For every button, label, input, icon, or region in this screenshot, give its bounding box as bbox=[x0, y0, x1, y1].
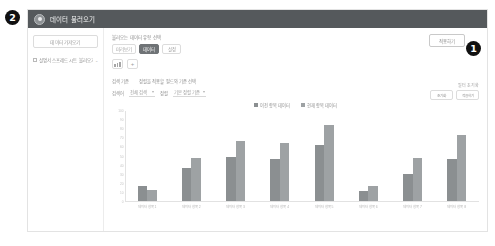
bar-series-1[interactable] bbox=[138, 186, 148, 201]
bar-series-2[interactable] bbox=[191, 158, 201, 201]
search-select[interactable]: 전체 검색 ▾ bbox=[129, 88, 155, 97]
bar-group bbox=[226, 111, 245, 201]
segment-preview[interactable]: 미리보기 bbox=[112, 44, 136, 54]
segment-settings[interactable]: 설정 bbox=[162, 44, 181, 54]
y-axis: 0102030405060708090100 bbox=[112, 111, 126, 202]
y-axis-tick: 60 bbox=[120, 145, 124, 149]
chart-section: 이전 항목 데이터 현재 항목 데이터 01020304050607080901… bbox=[104, 100, 487, 231]
sidebar: 데이터 가져오기 설명서 스프레드 시트 불러오기 ⌄ bbox=[28, 28, 104, 231]
annotation-badge-2: 2 bbox=[5, 10, 20, 25]
sort-select-value: 기본 정렬 기준 bbox=[174, 89, 200, 95]
filter-apply-button[interactable]: 적용하기 bbox=[456, 90, 479, 100]
sidebar-item-label: 설명서 스프레드 시트 불러오기 bbox=[39, 57, 93, 63]
bar-series-2[interactable] bbox=[236, 141, 246, 201]
filter-heading-search: 검색 기준 bbox=[112, 78, 129, 84]
bar-series-1[interactable] bbox=[270, 159, 280, 201]
y-axis-tick: 10 bbox=[120, 191, 124, 195]
apply-button-label: 적용하기 bbox=[439, 38, 455, 44]
bar-group bbox=[359, 111, 378, 201]
screenshot-root: 2 1 데이터 불러오기 데이터 가져오기 설명서 스프레드 시트 불러오기 ⌄… bbox=[0, 0, 495, 246]
bar-series-2[interactable] bbox=[280, 143, 290, 202]
filter-apply-button-label: 적용하기 bbox=[462, 93, 474, 98]
controls-section: 불러오는 데이터 유형 선택 미리보기 데이터 설정 bbox=[104, 28, 487, 69]
y-axis-tick: 0 bbox=[122, 200, 124, 204]
y-axis-tick: 70 bbox=[120, 136, 124, 140]
data-type-segmented-control: 미리보기 데이터 설정 bbox=[112, 44, 479, 54]
x-axis-label: 데이터 항목 4 bbox=[270, 204, 289, 209]
filter-action-buttons: 초기화 적용하기 bbox=[430, 90, 479, 100]
x-axis-label: 데이터 항목 6 bbox=[359, 204, 378, 209]
bar-group bbox=[403, 111, 422, 201]
bar-series-1[interactable] bbox=[447, 159, 457, 201]
bar-series-1[interactable] bbox=[359, 191, 369, 201]
window-body: 데이터 가져오기 설명서 스프레드 시트 불러오기 ⌄ 불러오는 데이터 유형 … bbox=[28, 28, 487, 231]
bar-series-1[interactable] bbox=[315, 145, 325, 201]
window-title: 데이터 불러오기 bbox=[50, 14, 95, 24]
y-axis-tick: 20 bbox=[120, 182, 124, 186]
bar-series-2[interactable] bbox=[368, 186, 378, 201]
legend-item-series-1: 이전 항목 데이터 bbox=[254, 102, 290, 108]
filter-section: 검색 기준 정렬을 적용할 필드와 기준 선택 검색어 전체 검색 ▾ 정렬 기… bbox=[104, 78, 487, 97]
bar-series-1[interactable] bbox=[226, 157, 236, 201]
sort-field-label: 정렬 bbox=[160, 90, 168, 96]
reset-button[interactable]: 초기화 bbox=[430, 90, 453, 100]
segment-data-label: 데이터 bbox=[143, 46, 155, 52]
x-axis-label: 데이터 항목 7 bbox=[403, 204, 422, 209]
bar-group bbox=[270, 111, 289, 201]
bar-group bbox=[182, 111, 201, 201]
y-axis-tick: 40 bbox=[120, 164, 124, 168]
icon-button-row: + bbox=[112, 59, 479, 69]
bar-series-2[interactable] bbox=[147, 190, 157, 201]
bar-group bbox=[447, 111, 466, 201]
y-axis-tick: 30 bbox=[120, 173, 124, 177]
bar-series-1[interactable] bbox=[403, 174, 413, 201]
y-axis-tick: 90 bbox=[120, 118, 124, 122]
import-data-label: 데이터 가져오기 bbox=[50, 39, 80, 45]
chevron-down-icon[interactable]: ⌄ bbox=[95, 58, 98, 63]
filter-headings: 검색 기준 정렬을 적용할 필드와 기준 선택 bbox=[112, 78, 479, 84]
bar-series-2[interactable] bbox=[457, 135, 467, 201]
bar-chart: 0102030405060708090100 데이터 항목 1데이터 항목 2데… bbox=[112, 111, 479, 214]
filter-actions: 필터 초기화 초기화 적용하기 bbox=[430, 82, 479, 100]
bar-series-1[interactable] bbox=[182, 168, 192, 201]
search-select-value: 전체 검색 bbox=[130, 89, 147, 95]
x-axis-label: 데이터 항목 3 bbox=[226, 204, 245, 209]
y-axis-tick: 50 bbox=[120, 155, 124, 159]
bar-group bbox=[315, 111, 334, 201]
add-icon-button[interactable]: + bbox=[127, 59, 138, 69]
bar-chart-icon-button[interactable] bbox=[112, 59, 123, 69]
chevron-down-icon: ▾ bbox=[152, 90, 154, 94]
controls-caption: 불러오는 데이터 유형 선택 bbox=[112, 34, 479, 40]
legend-swatch-icon bbox=[301, 103, 305, 107]
reset-button-label: 초기화 bbox=[437, 93, 446, 98]
chart-legend: 이전 항목 데이터 현재 항목 데이터 bbox=[112, 100, 479, 109]
bar-series-2[interactable] bbox=[413, 158, 423, 201]
legend-label-series-1: 이전 항목 데이터 bbox=[260, 102, 290, 108]
plot-area bbox=[125, 111, 479, 202]
apply-button[interactable]: 적용하기 bbox=[429, 34, 465, 47]
y-axis-tick: 80 bbox=[120, 127, 124, 131]
import-data-button[interactable]: 데이터 가져오기 bbox=[33, 35, 98, 48]
segment-data[interactable]: 데이터 bbox=[139, 44, 159, 54]
legend-label-series-2: 현재 항목 데이터 bbox=[307, 102, 337, 108]
filter-controls: 검색어 전체 검색 ▾ 정렬 기본 정렬 기준 ▾ bbox=[112, 88, 479, 97]
main-content: 불러오는 데이터 유형 선택 미리보기 데이터 설정 bbox=[104, 28, 487, 231]
plus-icon: + bbox=[131, 61, 135, 67]
annotation-badge-1: 1 bbox=[466, 41, 481, 56]
filter-actions-caption: 필터 초기화 bbox=[458, 82, 479, 88]
segment-settings-label: 설정 bbox=[168, 46, 176, 52]
x-axis-label: 데이터 항목 1 bbox=[138, 204, 157, 209]
sheet-icon bbox=[33, 58, 37, 62]
x-axis-label: 데이터 항목 8 bbox=[447, 204, 466, 209]
segment-preview-label: 미리보기 bbox=[116, 46, 132, 52]
bar-series-2[interactable] bbox=[324, 125, 334, 201]
chevron-down-icon: ▾ bbox=[203, 90, 205, 94]
filter-heading-sort: 정렬을 적용할 필드와 기준 선택 bbox=[139, 78, 196, 84]
camera-icon bbox=[34, 14, 45, 25]
search-field-label: 검색어 bbox=[112, 90, 124, 96]
bar-chart-icon bbox=[114, 62, 121, 67]
x-axis-labels: 데이터 항목 1데이터 항목 2데이터 항목 3데이터 항목 4데이터 항목 5… bbox=[125, 202, 479, 214]
sidebar-item-spreadsheet[interactable]: 설명서 스프레드 시트 불러오기 ⌄ bbox=[33, 55, 98, 65]
sort-select[interactable]: 기본 정렬 기준 ▾ bbox=[173, 88, 206, 97]
bar-group bbox=[138, 111, 157, 201]
